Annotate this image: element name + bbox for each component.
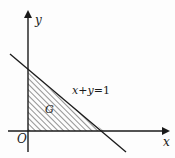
y-axis-label: y <box>35 14 42 26</box>
region-label-g: G <box>45 104 54 115</box>
origin-label: O <box>17 133 27 145</box>
equation-value: 1 <box>103 84 110 97</box>
equation-operator-equals: = <box>94 84 103 97</box>
figure-container: y x O G x+y=1 <box>0 0 175 158</box>
x-axis-label: x <box>163 136 170 148</box>
line-equation-label: x+y=1 <box>71 85 111 96</box>
